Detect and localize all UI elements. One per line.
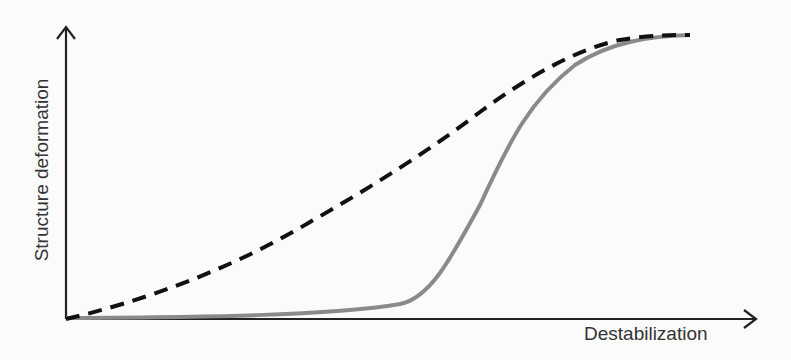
x-axis-label: Destabilization [584, 323, 708, 345]
chart-canvas [0, 0, 791, 360]
axes [57, 27, 756, 328]
y-axis-label: Structure deformation [31, 70, 53, 270]
solid-curve [66, 35, 690, 318]
dashed-curve [66, 35, 690, 319]
